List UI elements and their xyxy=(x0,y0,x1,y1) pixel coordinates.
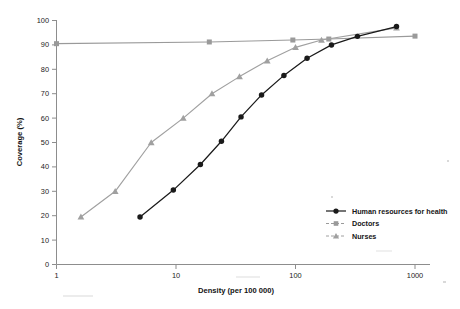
legend-item[interactable]: Nurses xyxy=(326,232,376,241)
data-point-marker xyxy=(209,90,216,96)
legend-item[interactable]: Doctors xyxy=(326,219,379,228)
y-tick-label: 100 xyxy=(37,16,49,25)
y-tick-label: 50 xyxy=(41,138,49,147)
x-tick-label: 10 xyxy=(172,271,180,280)
legend-label: Human resources for health xyxy=(352,207,447,216)
data-point-marker xyxy=(137,214,142,219)
x-tick-label: 1000 xyxy=(407,271,423,280)
legend-label: Doctors xyxy=(352,219,379,228)
x-axis-title: Density (per 100 000) xyxy=(198,286,274,295)
data-point-marker xyxy=(236,73,243,79)
chart-canvas: 100 90 80 70 60 50 40 30 20 10 0 1 xyxy=(0,0,460,309)
data-point-marker xyxy=(413,34,418,39)
y-tick-label: 0 xyxy=(45,260,49,269)
y-tick-label: 90 xyxy=(41,40,49,49)
legend-label: Nurses xyxy=(352,232,376,241)
y-ticks: 100 90 80 70 60 50 40 30 20 10 0 xyxy=(37,16,57,269)
legend-marker xyxy=(333,208,338,213)
data-point-marker xyxy=(290,38,295,43)
data-point-marker xyxy=(264,57,271,63)
y-axis-title: Coverage (%) xyxy=(15,117,24,166)
data-point-marker xyxy=(329,42,334,47)
data-point-marker xyxy=(238,114,243,119)
data-point-marker xyxy=(304,56,309,61)
y-tick-label: 20 xyxy=(41,211,49,220)
series-line xyxy=(81,28,397,217)
data-point-marker xyxy=(355,34,360,39)
data-point-marker xyxy=(219,139,224,144)
series-circle xyxy=(137,24,399,220)
y-tick-label: 60 xyxy=(41,114,49,123)
data-point-marker xyxy=(259,92,264,97)
chart-legend: Human resources for healthDoctorsNurses xyxy=(326,207,447,241)
legend-marker xyxy=(334,221,339,226)
x-tick-label: 1 xyxy=(54,271,58,280)
data-point-marker xyxy=(394,24,399,29)
data-series-layer xyxy=(54,24,418,220)
series-triangle xyxy=(78,24,400,219)
series-line xyxy=(57,36,416,44)
data-point-marker xyxy=(171,187,176,192)
x-tick-label: 100 xyxy=(289,271,301,280)
legend-item[interactable]: Human resources for health xyxy=(326,207,447,216)
y-tick-label: 80 xyxy=(41,65,49,74)
data-point-marker xyxy=(207,39,212,44)
chart-figure: 100 90 80 70 60 50 40 30 20 10 0 1 xyxy=(0,0,460,309)
data-point-marker xyxy=(198,162,203,167)
y-tick-label: 10 xyxy=(41,236,49,245)
y-tick-label: 40 xyxy=(41,162,49,171)
scan-noise xyxy=(63,160,449,297)
y-tick-label: 30 xyxy=(41,187,49,196)
data-point-marker xyxy=(54,41,59,46)
data-point-marker xyxy=(281,73,286,78)
y-tick-label: 70 xyxy=(41,89,49,98)
